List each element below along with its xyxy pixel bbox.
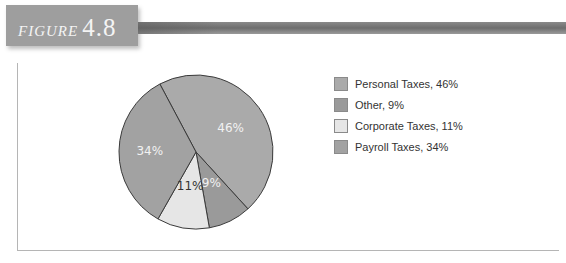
legend-item-other: Other, 9% <box>334 94 463 115</box>
legend-swatch <box>334 140 348 154</box>
pie-label-payroll-taxes: 34% <box>136 144 163 158</box>
legend-label: Payroll Taxes, 34% <box>355 141 448 153</box>
pie-label-personal-taxes: 46% <box>217 121 244 135</box>
pie-chart: 46%9%11%34% <box>0 0 566 263</box>
legend-label: Personal Taxes, 46% <box>355 78 458 90</box>
chart-legend: Personal Taxes, 46% Other, 9% Corporate … <box>334 73 463 157</box>
legend-item-corporate-taxes: Corporate Taxes, 11% <box>334 115 463 136</box>
legend-item-personal-taxes: Personal Taxes, 46% <box>334 73 463 94</box>
legend-swatch <box>334 98 348 112</box>
legend-label: Corporate Taxes, 11% <box>355 120 463 132</box>
legend-swatch <box>334 77 348 91</box>
legend-item-payroll-taxes: Payroll Taxes, 34% <box>334 136 463 157</box>
pie-label-other: 9% <box>202 176 221 190</box>
pie-label-corporate-taxes: 11% <box>177 179 204 193</box>
legend-swatch <box>334 119 348 133</box>
legend-label: Other, 9% <box>355 99 404 111</box>
